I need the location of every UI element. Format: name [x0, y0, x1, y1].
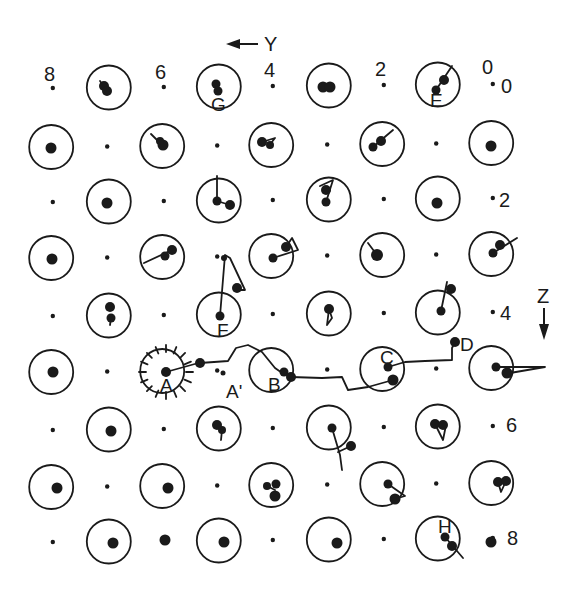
atom-dot — [324, 304, 334, 314]
atom-dot — [272, 480, 281, 489]
atom-dot — [371, 249, 383, 261]
atom-dot — [257, 137, 267, 147]
atom-dot — [321, 185, 331, 195]
atom-dot — [221, 255, 227, 261]
label-h: H — [438, 516, 452, 537]
atom-dot — [156, 137, 164, 145]
atom-dot — [495, 240, 505, 250]
lattice-site-dot — [434, 366, 438, 370]
atom-dot — [328, 424, 337, 433]
atom-dot — [486, 537, 497, 548]
y-axis-label: Y — [264, 33, 277, 55]
atom-dot — [52, 483, 63, 494]
tick-label: 6 — [506, 414, 517, 436]
lattice-site-dot — [271, 312, 275, 316]
atom-dot — [47, 254, 58, 265]
atom-dot — [105, 302, 115, 312]
trajectory-path — [184, 380, 190, 383]
atom-dot — [432, 198, 443, 209]
lattice-site-circle — [307, 518, 351, 562]
atom-dot — [102, 198, 113, 209]
atom-dot — [270, 491, 281, 502]
atom-dot — [221, 371, 226, 376]
y-axis-indicator: Y — [226, 33, 277, 55]
lattice-site-dot — [434, 141, 438, 145]
atom-dot — [325, 82, 336, 93]
label-f: F — [217, 320, 229, 341]
lattice-site-dot — [51, 200, 55, 204]
trajectory-path — [291, 377, 393, 390]
atom-dot — [492, 363, 501, 372]
atom-dot — [388, 375, 399, 386]
lattice-site-dot — [325, 253, 329, 257]
atom-dot — [281, 242, 291, 252]
z-axis-label: Z — [537, 285, 549, 307]
lattice-site-dot — [105, 144, 109, 148]
lattice-site-dot — [491, 82, 495, 86]
lattice-site-dot — [215, 254, 219, 258]
label-e: E — [430, 90, 443, 111]
lattice-site-dot — [382, 425, 386, 429]
atom-dot — [163, 483, 174, 494]
lattice-site-dot — [51, 428, 55, 432]
lattice-site-dot — [271, 426, 275, 430]
lattice-site-circle — [249, 463, 293, 507]
tick-label: 0 — [482, 56, 493, 78]
tick-label: 0 — [501, 75, 512, 97]
lattice-site-dot — [325, 367, 329, 371]
atom-dot — [213, 197, 222, 206]
lattice-site-dot — [105, 255, 109, 259]
atom-dot — [160, 535, 171, 546]
lattice-site-dot — [215, 483, 219, 487]
atom-dot — [219, 537, 230, 548]
lattice-site-dot — [491, 424, 495, 428]
trajectory-path — [180, 386, 185, 391]
label-a-prime: A' — [226, 381, 242, 402]
lattice-site-dot — [162, 85, 166, 89]
atom-dot — [322, 198, 331, 207]
trajectory-path — [180, 353, 185, 358]
lattice-site-dot — [325, 482, 329, 486]
trajectory-path — [184, 362, 190, 365]
atom-dot — [46, 143, 57, 154]
tick-label: 4 — [264, 59, 275, 81]
atom-dot — [218, 426, 226, 434]
atom-dot — [269, 254, 278, 263]
arrow-down-head-icon — [539, 324, 549, 340]
lattice-site-dot — [162, 427, 166, 431]
tick-label: 8 — [44, 63, 55, 85]
atom-dot — [390, 494, 401, 505]
lattice-site-dot — [215, 368, 219, 372]
tick-label: 4 — [500, 302, 511, 324]
trajectory-path — [174, 347, 177, 353]
lattice-site-dot — [215, 143, 219, 147]
atom-dot — [450, 337, 460, 347]
lattice-site-circle — [29, 465, 73, 509]
atom-dot — [108, 538, 119, 549]
lattice-trajectory-figure: Y Z 8 6 4 2 0 0 2 4 6 8 A A' B C D E F G… — [0, 0, 587, 595]
atom-dot — [195, 358, 205, 368]
tick-label: 2 — [375, 58, 386, 80]
lattice-site-dot — [105, 484, 109, 488]
atom-dot — [489, 249, 498, 258]
lattice-site-dot — [382, 83, 386, 87]
lattice-site-dot — [51, 86, 55, 90]
lattice-site-dot — [162, 313, 166, 317]
atom-positions — [46, 75, 513, 551]
atom-dot — [232, 283, 242, 293]
trajectory-path — [174, 390, 177, 396]
label-d: D — [460, 334, 474, 355]
lattice-site-dot — [51, 540, 55, 544]
lattice-site-dot — [382, 311, 386, 315]
atom-dot — [286, 372, 296, 382]
atom-dot — [266, 141, 274, 149]
lattice-site-dot — [382, 537, 386, 541]
lattice-site-dot — [271, 84, 275, 88]
atom-dot — [502, 368, 513, 379]
tick-label: 2 — [499, 189, 510, 211]
atom-dot — [263, 482, 271, 490]
atom-dot — [438, 420, 448, 430]
point-labels: A A' B C D E F G H — [160, 90, 474, 537]
tick-label: 6 — [155, 61, 166, 83]
top-tick-labels: 8 6 4 2 0 — [44, 56, 493, 85]
